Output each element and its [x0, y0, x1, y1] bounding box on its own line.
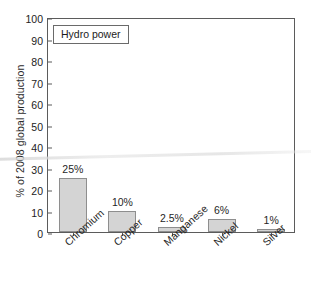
bar-group: 1% — [246, 19, 296, 232]
bar-chart-figure: % of 2008 global production 010203040506… — [0, 0, 311, 299]
bar-value-label: 25% — [62, 163, 83, 175]
plot-area: 0102030405060708090100 Hydro power 25%10… — [47, 18, 295, 233]
page-bottom-edge — [0, 291, 311, 299]
y-tick-label: 10 — [9, 207, 48, 219]
y-tick-label: 50 — [9, 121, 48, 133]
y-tick-mark — [48, 234, 52, 235]
bar-value-label: 6% — [214, 204, 229, 216]
bar-group: 2.5% — [147, 19, 197, 232]
y-tick-label: 30 — [9, 164, 48, 176]
y-tick-label: 70 — [9, 78, 48, 90]
bars-layer: 25%10%2.5%6%1% — [48, 19, 294, 232]
y-tick-label: 100 — [9, 13, 48, 25]
y-tick-label: 0 — [9, 228, 48, 240]
bar-group: 10% — [98, 19, 148, 232]
bar-group: 25% — [48, 19, 98, 232]
bar-value-label: 10% — [112, 196, 133, 208]
y-tick-label: 40 — [9, 142, 48, 154]
y-tick-label: 60 — [9, 99, 48, 111]
y-tick-label: 90 — [9, 35, 48, 47]
bar-group: 6% — [197, 19, 247, 232]
y-tick-label: 80 — [9, 56, 48, 68]
y-tick-label: 20 — [9, 185, 48, 197]
